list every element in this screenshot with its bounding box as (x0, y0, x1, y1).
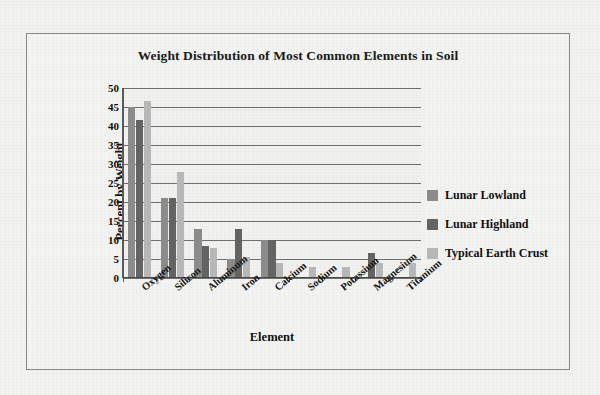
y-tick-label: 5 (89, 254, 119, 265)
gridline (123, 164, 421, 165)
legend-item[interactable]: Lunar Lowland (427, 189, 548, 201)
plot-area: 50454035302520151050 OxygenSiliconAlumin… (123, 88, 421, 278)
y-axis-line (122, 88, 124, 278)
chart-title: Weight Distribution of Most Common Eleme… (27, 48, 569, 64)
x-axis-line (122, 277, 421, 279)
bar (177, 172, 184, 278)
legend-swatch-icon (427, 248, 438, 259)
legend-item[interactable]: Typical Earth Crust (427, 247, 548, 259)
legend-label: Lunar Highland (445, 218, 528, 230)
gridline (123, 107, 421, 108)
gridline (123, 88, 421, 89)
gridline (123, 145, 421, 146)
gridline (123, 126, 421, 127)
bar (268, 240, 275, 278)
y-tick-label: 20 (89, 197, 119, 208)
y-tick-label: 15 (89, 216, 119, 227)
bar (261, 240, 268, 278)
bar (169, 198, 176, 278)
y-tick-label: 45 (89, 102, 119, 113)
y-tick-label: 40 (89, 121, 119, 132)
y-tick-label: 0 (89, 273, 119, 284)
bar (128, 107, 135, 278)
chart-legend: Lunar LowlandLunar HighlandTypical Earth… (427, 189, 548, 276)
legend-label: Typical Earth Crust (445, 247, 548, 259)
gridline (123, 183, 421, 184)
legend-label: Lunar Lowland (445, 189, 526, 201)
legend-item[interactable]: Lunar Highland (427, 218, 548, 230)
x-tick-mark (123, 278, 124, 282)
figure-frame: Weight Distribution of Most Common Eleme… (26, 33, 570, 370)
y-tick-label: 30 (89, 159, 119, 170)
y-tick-label: 50 (89, 83, 119, 94)
y-tick-label: 25 (89, 178, 119, 189)
legend-swatch-icon (427, 219, 438, 230)
y-tick-label: 35 (89, 140, 119, 151)
x-axis-title: Element (123, 330, 421, 345)
y-tick-label: 10 (89, 235, 119, 246)
legend-swatch-icon (427, 190, 438, 201)
bar (136, 120, 143, 278)
bar (144, 101, 151, 278)
